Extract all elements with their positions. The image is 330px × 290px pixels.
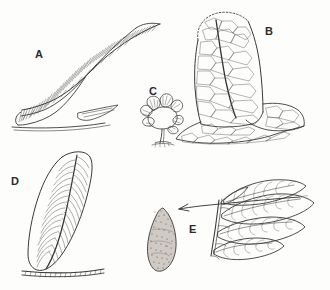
figure-label-b: B <box>265 26 273 37</box>
figure-label-e: E <box>189 224 197 235</box>
figure-label-a: A <box>35 49 43 60</box>
botanical-plate <box>0 0 330 290</box>
figure-label-d: D <box>11 176 19 187</box>
figure-label-c: C <box>149 86 157 97</box>
